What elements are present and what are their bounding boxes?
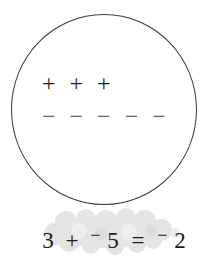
- equals-sign: =: [132, 229, 145, 253]
- plus-operator: +: [66, 229, 79, 253]
- minus-sign: −: [125, 104, 139, 128]
- plus-sign: +: [97, 71, 111, 95]
- minus-row: − − − − −: [42, 104, 166, 128]
- figure-canvas: + + + − − − − − 3 + − 5 = − 2: [0, 0, 212, 257]
- plus-sign: +: [70, 71, 84, 95]
- equation-result: 2: [174, 229, 186, 253]
- minus-sign: −: [42, 104, 56, 128]
- equation: 3 + − 5 = − 2: [38, 223, 190, 253]
- negative-sign: −: [157, 223, 167, 247]
- negative-sign: −: [90, 223, 100, 247]
- minus-sign: −: [97, 104, 111, 128]
- plus-row: + + +: [42, 70, 111, 96]
- equation-addend1: 3: [42, 229, 54, 253]
- plus-sign: +: [42, 71, 56, 95]
- equation-addend2: 5: [107, 229, 119, 253]
- minus-sign: −: [70, 104, 84, 128]
- minus-sign: −: [152, 104, 166, 128]
